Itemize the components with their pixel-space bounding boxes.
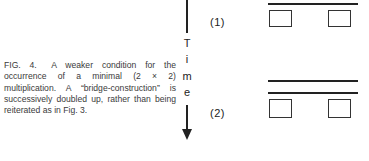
box-left [269, 99, 292, 118]
time-letter-e: e [182, 86, 192, 98]
figure-label: FIG. 4. [4, 60, 37, 70]
box-right [328, 10, 351, 27]
figure-caption: FIG. 4. A weaker condition for the occur… [4, 60, 176, 116]
time-letter-m: m [182, 70, 192, 82]
bridge-line [268, 3, 358, 5]
time-letter-t: T [182, 37, 192, 49]
down-arrow-icon [182, 129, 192, 140]
box-left [269, 10, 292, 27]
stage-2-label: (2) [210, 107, 225, 119]
box-right [328, 99, 351, 118]
time-arrow-shaft [186, 105, 188, 131]
stage-1-label: (1) [210, 16, 225, 28]
time-axis-line [186, 0, 188, 33]
bridge-line-upper [268, 80, 358, 82]
time-letter-i: i [182, 53, 192, 65]
bridge-line-lower [268, 92, 358, 94]
